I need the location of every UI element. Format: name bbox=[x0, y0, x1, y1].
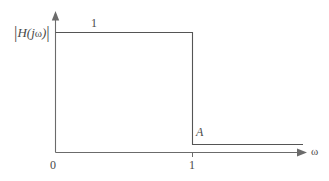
stopband-level-label: A bbox=[196, 126, 203, 138]
x-tick-label-origin: 0 bbox=[50, 159, 56, 171]
x-tick-label-cutoff: 1 bbox=[189, 159, 195, 171]
passband-level-label: 1 bbox=[91, 17, 97, 29]
y-axis-label-h: H bbox=[17, 25, 26, 40]
response-curve bbox=[56, 33, 304, 145]
y-axis-label-right-bar: | bbox=[46, 23, 49, 42]
figure-container: |H(jω)| 1 A 0 1 ω bbox=[0, 0, 329, 181]
x-axis bbox=[56, 149, 308, 157]
x-axis-label: ω bbox=[311, 146, 318, 157]
y-axis-label: |H(jω)| bbox=[14, 24, 50, 41]
y-axis-label-omega: ω bbox=[35, 27, 42, 39]
